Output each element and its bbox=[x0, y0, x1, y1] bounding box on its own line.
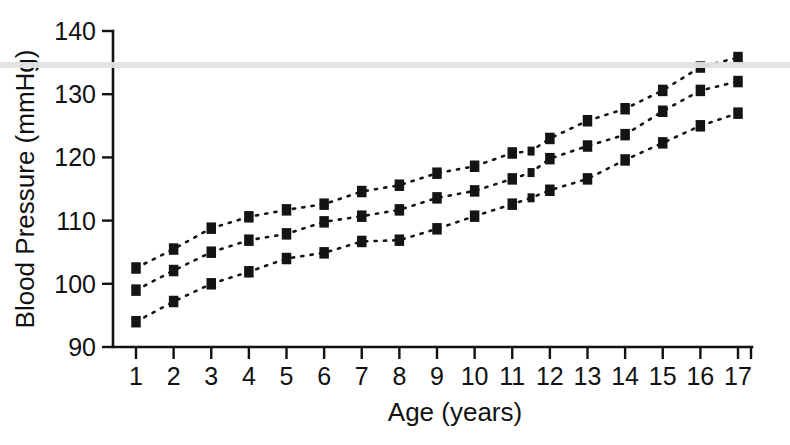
data-point-marker bbox=[395, 179, 405, 191]
data-point-marker bbox=[207, 222, 217, 234]
chart-series bbox=[131, 52, 743, 328]
data-point-marker bbox=[244, 211, 254, 223]
y-axis-tick-label: 110 bbox=[56, 207, 96, 235]
y-axis-tick-label: 130 bbox=[54, 80, 96, 108]
data-point-marker bbox=[733, 52, 743, 64]
y-axis-title: Blood Pressure (mmHg) bbox=[10, 50, 40, 329]
data-point-marker bbox=[282, 253, 292, 265]
data-point-marker bbox=[583, 115, 593, 127]
data-point-marker bbox=[131, 316, 141, 328]
data-point-marker bbox=[131, 262, 141, 274]
data-point-marker bbox=[733, 107, 743, 119]
data-point-marker bbox=[528, 168, 535, 177]
data-point-marker bbox=[207, 278, 217, 290]
data-point-marker bbox=[658, 85, 668, 97]
y-axis-tick-label: 140 bbox=[54, 17, 96, 45]
data-point-marker bbox=[169, 296, 179, 308]
x-axis-tick-label: 3 bbox=[204, 362, 218, 390]
data-point-marker bbox=[696, 61, 706, 73]
data-point-marker bbox=[432, 223, 442, 235]
data-point-marker bbox=[583, 173, 593, 185]
chart-figure: 9010011012013014012345678910111213141516… bbox=[0, 0, 790, 445]
x-axis-tick-label: 13 bbox=[574, 362, 602, 390]
data-point-marker bbox=[696, 120, 706, 132]
data-point-marker bbox=[528, 147, 535, 156]
x-axis-title: Age (years) bbox=[388, 397, 522, 427]
data-point-marker bbox=[620, 129, 630, 141]
data-point-marker bbox=[545, 133, 555, 145]
x-axis-tick-label: 12 bbox=[536, 362, 564, 390]
data-point-marker bbox=[733, 76, 743, 88]
data-point-marker bbox=[319, 216, 329, 228]
data-point-marker bbox=[583, 140, 593, 152]
chart-axes bbox=[102, 31, 752, 359]
data-point-marker bbox=[658, 106, 668, 118]
data-point-marker bbox=[319, 198, 329, 210]
data-point-marker bbox=[620, 103, 630, 115]
y-axis-tick-label: 100 bbox=[54, 270, 96, 298]
data-point-marker bbox=[620, 154, 630, 166]
data-point-marker bbox=[545, 185, 555, 197]
data-point-marker bbox=[282, 204, 292, 216]
data-point-marker bbox=[696, 85, 706, 97]
data-point-marker bbox=[244, 266, 254, 278]
x-axis-tick-label: 8 bbox=[392, 362, 406, 390]
x-axis-tick-label: 15 bbox=[649, 362, 677, 390]
data-point-marker bbox=[357, 186, 367, 198]
axis-spine bbox=[113, 31, 752, 347]
x-axis-tick-label: 4 bbox=[242, 362, 256, 390]
x-axis-tick-label: 6 bbox=[317, 362, 331, 390]
data-point-marker bbox=[131, 284, 141, 296]
data-point-marker bbox=[207, 246, 217, 258]
data-point-marker bbox=[432, 192, 442, 204]
data-point-marker bbox=[508, 198, 518, 210]
data-point-marker bbox=[528, 193, 535, 202]
data-point-marker bbox=[319, 247, 329, 259]
data-point-marker bbox=[508, 173, 518, 185]
x-axis-tick-label: 5 bbox=[280, 362, 294, 390]
x-axis-tick-label: 1 bbox=[129, 362, 143, 390]
data-point-marker bbox=[508, 147, 518, 159]
x-axis-tick-label: 16 bbox=[686, 362, 714, 390]
x-axis-tick-label: 11 bbox=[499, 362, 525, 390]
data-point-marker bbox=[395, 204, 405, 216]
data-point-marker bbox=[169, 243, 179, 255]
y-axis-tick-label: 120 bbox=[54, 143, 96, 171]
series-line-middle-curve bbox=[136, 82, 738, 291]
y-axis-tick-label: 90 bbox=[68, 333, 96, 361]
series-line-lower-curve bbox=[136, 113, 738, 322]
data-point-marker bbox=[357, 236, 367, 248]
data-point-marker bbox=[357, 210, 367, 222]
x-axis-tick-label: 17 bbox=[724, 362, 752, 390]
data-point-marker bbox=[244, 234, 254, 246]
x-axis-tick-label: 14 bbox=[611, 362, 639, 390]
data-point-marker bbox=[169, 265, 179, 277]
x-axis-tick-label: 2 bbox=[167, 362, 181, 390]
data-point-marker bbox=[395, 234, 405, 246]
blood-pressure-line-chart: 9010011012013014012345678910111213141516… bbox=[0, 0, 790, 445]
data-point-marker bbox=[658, 137, 668, 149]
data-point-marker bbox=[545, 153, 555, 165]
data-point-marker bbox=[282, 228, 292, 240]
x-axis-tick-label: 10 bbox=[461, 362, 489, 390]
data-point-marker bbox=[470, 161, 480, 173]
chart-labels: 9010011012013014012345678910111213141516… bbox=[10, 17, 752, 427]
series-line-upper-curve bbox=[136, 58, 738, 268]
data-point-marker bbox=[470, 210, 480, 222]
x-axis-tick-label: 9 bbox=[430, 362, 444, 390]
data-point-marker bbox=[470, 185, 480, 197]
data-point-marker bbox=[432, 167, 442, 179]
x-axis-tick-label: 7 bbox=[355, 362, 369, 390]
